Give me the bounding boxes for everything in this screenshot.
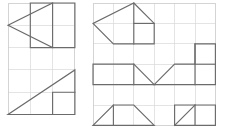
geometry-figure-root: [0, 0, 225, 130]
right-panel: [93, 3, 215, 125]
geometry-canvas: [0, 0, 225, 130]
bottom-left-trapezoid: [93, 105, 154, 125]
panels-layer: [8, 3, 215, 125]
middle-left-trapezoid: [93, 64, 154, 84]
left-panel-shapes: [8, 3, 75, 115]
lower-triangle-inner-square: [53, 92, 75, 114]
left-panel: [8, 3, 75, 115]
bottom-right-diagonal: [175, 105, 195, 125]
